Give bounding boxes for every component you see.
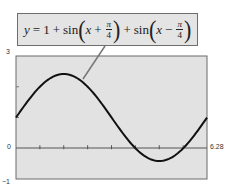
equals-sign: =	[33, 22, 40, 38]
variable-x-2: x	[156, 22, 162, 38]
x-min-label: 0	[7, 143, 11, 150]
fraction-pi-over-4-2: π 4	[176, 19, 183, 40]
x-max-label: 6.28	[210, 143, 224, 150]
y-max-label: 3	[6, 48, 10, 55]
left-paren-2: (	[149, 17, 156, 42]
left-paren-1: (	[78, 17, 85, 42]
fraction-denominator: 4	[107, 30, 112, 40]
fraction-denominator: 4	[177, 30, 182, 40]
plus-sign-2: +	[123, 22, 130, 38]
equation-lhs: y	[24, 22, 30, 38]
plus-sign-inner: +	[94, 22, 101, 38]
plus-sign: +	[53, 22, 60, 38]
fraction-numerator: π	[176, 19, 183, 30]
y-min-label: −1	[2, 178, 10, 185]
variable-x-1: x	[85, 22, 91, 38]
minus-sign-inner: −	[165, 22, 172, 38]
right-paren-2: )	[184, 17, 191, 42]
fraction-numerator: π	[106, 19, 113, 30]
equation-callout: y = 1 + sin ( x + π 4 ) + sin ( x − π 4 …	[17, 13, 198, 46]
right-paren-1: )	[113, 17, 120, 42]
equation-constant: 1	[43, 22, 50, 38]
sin-function-2: sin	[134, 22, 149, 38]
sin-function-1: sin	[63, 22, 78, 38]
fraction-pi-over-4-1: π 4	[106, 19, 113, 40]
